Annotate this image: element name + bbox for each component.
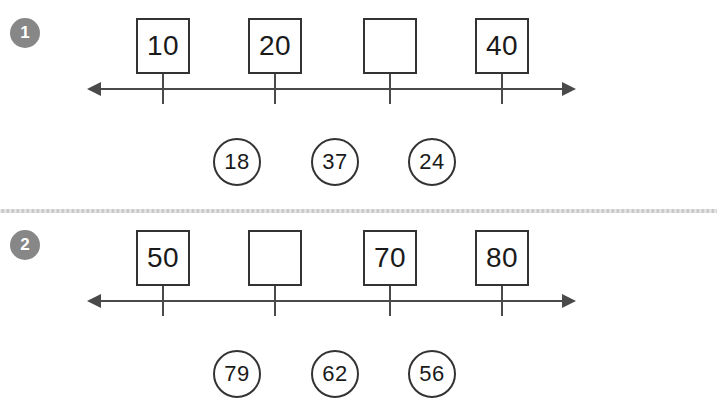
value-box-1[interactable]: 10	[136, 18, 190, 74]
choice-circle-2[interactable]: 62	[311, 350, 359, 398]
choice-circle-1[interactable]: 18	[213, 138, 261, 186]
choice-circle-3[interactable]: 24	[408, 138, 456, 186]
arrow-right-icon	[562, 82, 576, 96]
arrow-left-icon	[87, 82, 101, 96]
worksheet: 1 10 20 40 18 37 24 2 50 70 80	[0, 0, 717, 413]
value-box-4[interactable]: 80	[475, 230, 529, 286]
value-box-2-blank[interactable]	[248, 230, 302, 286]
number-line-axis	[100, 300, 563, 302]
number-line-axis	[100, 88, 563, 90]
choice-circle-1[interactable]: 79	[213, 350, 261, 398]
arrow-right-icon	[562, 294, 576, 308]
problem-1: 1 10 20 40 18 37 24	[0, 0, 717, 203]
value-box-3[interactable]: 70	[363, 230, 417, 286]
problem-number-badge: 2	[10, 230, 40, 260]
problem-2: 2 50 70 80 79 62 56	[0, 212, 717, 413]
arrow-left-icon	[87, 294, 101, 308]
choice-circle-3[interactable]: 56	[408, 350, 456, 398]
choice-circle-2[interactable]: 37	[311, 138, 359, 186]
number-line	[100, 300, 563, 302]
value-box-4[interactable]: 40	[475, 18, 529, 74]
problem-number-badge: 1	[10, 18, 40, 48]
value-box-3-blank[interactable]	[363, 18, 417, 74]
value-box-1[interactable]: 50	[136, 230, 190, 286]
number-line	[100, 88, 563, 90]
value-box-2[interactable]: 20	[248, 18, 302, 74]
